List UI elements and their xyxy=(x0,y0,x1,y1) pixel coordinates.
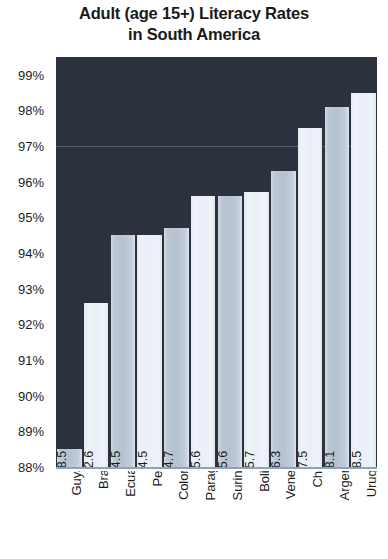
bar: 97.5 xyxy=(298,128,323,467)
bar: 88.5 xyxy=(57,449,82,467)
x-axis-tick: Paraguay xyxy=(190,471,217,559)
bar: 94.7 xyxy=(164,228,189,467)
x-axis-tick-label: Uruguay xyxy=(364,471,377,497)
y-axis-tick-label: 98% xyxy=(18,103,44,118)
plot-area: 88.592.694.594.594.795.695.695.796.397.5… xyxy=(56,57,377,467)
y-axis: 88%89%90%91%92%93%94%95%96%97%98%99% xyxy=(0,57,50,467)
x-axis-tick: Venezuel xyxy=(270,471,297,559)
bar: 95.6 xyxy=(191,196,216,467)
y-axis-tick-label: 95% xyxy=(18,210,44,225)
bar-value-label: 94.5 xyxy=(136,451,150,467)
bar: 94.5 xyxy=(137,235,162,467)
bar-value-label: 97.5 xyxy=(296,451,310,467)
x-axis: GuyanaBrazilEcuadorPeruColombiaParaguayS… xyxy=(56,471,377,559)
x-axis-tick: Argentina xyxy=(324,471,351,559)
bar: 95.7 xyxy=(244,192,269,467)
y-axis-tick-label: 88% xyxy=(18,460,44,475)
y-axis-tick-label: 91% xyxy=(18,353,44,368)
literacy-rates-bar-chart: Adult (age 15+) Literacy Rates in South … xyxy=(0,0,388,559)
bar-value-label: 98.1 xyxy=(323,451,337,467)
bar-value-label: 92.6 xyxy=(82,451,96,467)
y-axis-tick-label: 93% xyxy=(18,281,44,296)
bar: 98.1 xyxy=(325,107,350,467)
x-axis-tick: Uruguay xyxy=(350,471,377,559)
bar-value-label: 94.7 xyxy=(162,451,176,467)
x-axis-tick: Brazil xyxy=(83,471,110,559)
x-axis-tick: Suriname xyxy=(217,471,244,559)
chart-title-line-1: Adult (age 15+) Literacy Rates xyxy=(0,3,388,24)
x-axis-tick: Bolivia xyxy=(243,471,270,559)
bars-group: 88.592.694.594.594.795.695.695.796.397.5… xyxy=(56,57,377,467)
y-axis-tick-label: 99% xyxy=(18,67,44,82)
x-axis-line xyxy=(56,467,377,469)
bar-value-label: 95.6 xyxy=(189,451,203,467)
y-axis-tick-label: 96% xyxy=(18,174,44,189)
bar: 92.6 xyxy=(84,303,109,467)
bar-value-label: 95.6 xyxy=(216,451,230,467)
bar-value-label: 96.3 xyxy=(269,451,283,467)
y-axis-tick-label: 97% xyxy=(18,139,44,154)
y-axis-tick-label: 92% xyxy=(18,317,44,332)
bar-value-label: 88.5 xyxy=(56,451,69,467)
y-axis-tick-label: 89% xyxy=(18,424,44,439)
y-axis-tick-label: 90% xyxy=(18,388,44,403)
bar-value-label: 94.5 xyxy=(109,451,123,467)
x-axis-tick: Peru xyxy=(136,471,163,559)
bar: 96.3 xyxy=(271,171,296,467)
bar-value-label: 98.5 xyxy=(350,451,364,467)
y-axis-tick-label: 94% xyxy=(18,246,44,261)
x-axis-tick: Colombia xyxy=(163,471,190,559)
bar: 94.5 xyxy=(111,235,136,467)
x-axis-tick: Chile xyxy=(297,471,324,559)
chart-title: Adult (age 15+) Literacy Rates in South … xyxy=(0,3,388,45)
x-axis-tick: Ecuador xyxy=(110,471,137,559)
bar: 95.6 xyxy=(218,196,243,467)
x-axis-tick: Guyana xyxy=(56,471,83,559)
bar: 98.5 xyxy=(351,93,376,467)
chart-title-line-2: in South America xyxy=(0,24,388,45)
bar-value-label: 95.7 xyxy=(243,451,257,467)
